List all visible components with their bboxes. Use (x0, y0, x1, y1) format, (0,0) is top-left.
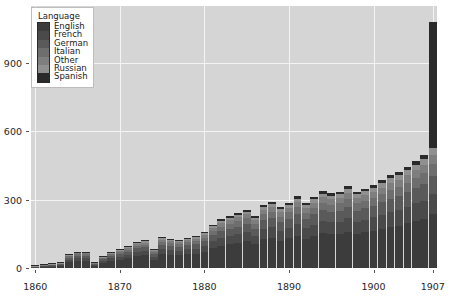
bar-segment (319, 197, 327, 202)
y-axis-tick-mark (26, 268, 29, 269)
bar-segment (209, 225, 217, 226)
bar-segment (344, 193, 352, 199)
bar-segment (302, 228, 310, 238)
legend-swatch (38, 31, 49, 39)
bar-segment (175, 240, 183, 241)
bar-segment (192, 254, 200, 268)
bar-segment (387, 175, 395, 178)
bar-segment (82, 254, 90, 256)
bar-segment (310, 236, 318, 268)
bar-segment (387, 178, 395, 183)
bar-segment (201, 246, 209, 252)
x-axis-tick-mark (120, 270, 121, 273)
bar-segment (412, 188, 420, 203)
bar-segment (209, 241, 217, 248)
bar (74, 252, 82, 268)
bar-segment (184, 254, 192, 268)
bar-segment (175, 240, 183, 241)
bar (404, 167, 412, 268)
bar-segment (243, 214, 251, 218)
x-axis-tick-mark (35, 270, 36, 273)
bar-segment (353, 192, 361, 195)
bar-segment (48, 266, 56, 267)
bar-segment (82, 253, 90, 254)
bar-segment (310, 203, 318, 208)
bar-segment (65, 255, 73, 256)
bar-segment (285, 219, 293, 228)
bar (201, 232, 209, 268)
bar-segment (370, 206, 378, 218)
bar-segment (82, 261, 90, 268)
bar-segment (319, 233, 327, 268)
bar (167, 239, 175, 268)
bar-segment (31, 267, 39, 268)
bar-segment (370, 198, 378, 206)
bar-segment (294, 224, 302, 235)
bar-segment (268, 218, 276, 227)
bar-segment (124, 248, 132, 250)
bar-segment (370, 188, 378, 192)
bar-segment (395, 196, 403, 210)
bar-segment (310, 225, 318, 236)
bar-segment (234, 215, 242, 218)
x-axis-tick-label: 1900 (361, 281, 385, 292)
bar-segment (116, 249, 124, 250)
bar-segment (184, 249, 192, 254)
bar-segment (420, 165, 428, 173)
bar-segment (158, 240, 166, 242)
bar-segment (319, 210, 327, 221)
legend-swatch (38, 40, 49, 48)
bar-segment (234, 227, 242, 235)
y-axis-tick-label: 900 (0, 57, 22, 68)
bar-segment (395, 175, 403, 180)
x-axis-tick-label: 1880 (192, 281, 216, 292)
bar-segment (184, 240, 192, 242)
bar (387, 175, 395, 268)
bar-segment (344, 218, 352, 231)
bar-segment (294, 199, 302, 202)
bar-segment (243, 210, 251, 212)
bar-segment (226, 218, 234, 221)
bar-segment (395, 187, 403, 196)
bar-segment (57, 263, 65, 264)
bar-segment (133, 246, 141, 249)
bar-segment (74, 252, 82, 253)
bar-segment (192, 241, 200, 244)
bar-segment (319, 191, 327, 194)
bar-segment (74, 254, 82, 256)
bar (48, 263, 56, 268)
bar-segment (285, 203, 293, 205)
bar-segment (91, 263, 99, 264)
bar-segment (378, 229, 386, 268)
bar-segment (302, 213, 310, 219)
bar-segment (133, 256, 141, 268)
bar-segment (302, 219, 310, 228)
bar-segment (361, 195, 369, 201)
bar-segment (99, 258, 107, 259)
bar-segment (141, 243, 149, 245)
bar-segment (251, 236, 259, 244)
bar-segment (175, 244, 183, 247)
bar (65, 254, 73, 268)
bar-segment (268, 202, 276, 204)
bar-segment (192, 244, 200, 249)
bar-segment (150, 250, 158, 251)
bar (31, 265, 39, 268)
bar-segment (404, 223, 412, 268)
bar-segment (107, 256, 115, 259)
bar-segment (370, 185, 378, 188)
bar-segment (107, 253, 115, 254)
bar-segment (234, 221, 242, 226)
bar-segment (310, 197, 318, 199)
bar-segment (226, 224, 234, 229)
y-axis-tick-mark (26, 131, 29, 132)
bar (327, 193, 335, 268)
bar-segment (251, 224, 259, 229)
bar-segment (404, 192, 412, 207)
bar-segment (370, 192, 378, 198)
bar-segment (74, 253, 82, 254)
bar-segment (327, 234, 335, 268)
legend: Language EnglishFrenchGermanItalianOther… (31, 7, 94, 88)
bar (243, 210, 251, 268)
bar-segment (260, 229, 268, 239)
